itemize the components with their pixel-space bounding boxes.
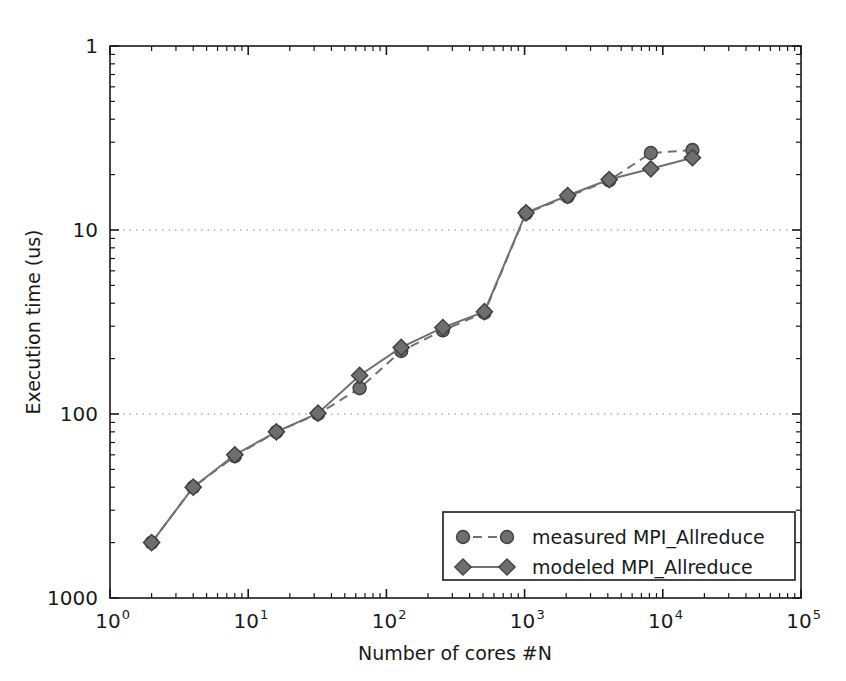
x-tick-exponent: 2: [398, 607, 406, 622]
chart-legend[interactable]: measured MPI_Allreducemodeled MPI_Allred…: [443, 512, 795, 580]
x-tick-mantissa: 10: [648, 609, 673, 633]
x-tick-mantissa: 10: [372, 609, 397, 633]
x-tick-mantissa: 10: [786, 609, 811, 633]
x-tick-mantissa: 10: [233, 609, 258, 633]
x-tick-exponent: 1: [260, 607, 268, 622]
legend-label: modeled MPI_Allreduce: [532, 556, 753, 579]
y-tick-label: 100: [60, 402, 98, 426]
y-tick-label: 10: [73, 218, 98, 242]
data-point: [644, 147, 657, 160]
y-tick-label: 1000: [47, 586, 98, 610]
x-tick-exponent: 5: [813, 607, 821, 622]
x-tick-mantissa: 10: [95, 609, 120, 633]
legend-marker: [501, 531, 514, 544]
x-tick-mantissa: 10: [510, 609, 535, 633]
legend-marker: [457, 531, 470, 544]
x-tick-exponent: 3: [536, 607, 544, 622]
x-axis-label: Number of cores #N: [358, 642, 552, 664]
y-tick-label: 1: [85, 34, 98, 58]
execution-time-vs-cores-chart: 1000100101 100101102103104105 Number of …: [0, 0, 846, 681]
y-axis-label: Execution time (us): [22, 229, 44, 414]
chart-figure: 1000100101 100101102103104105 Number of …: [0, 0, 846, 681]
x-tick-exponent: 0: [122, 607, 130, 622]
x-tick-exponent: 4: [675, 607, 683, 622]
legend-label: measured MPI_Allreduce: [532, 526, 765, 549]
